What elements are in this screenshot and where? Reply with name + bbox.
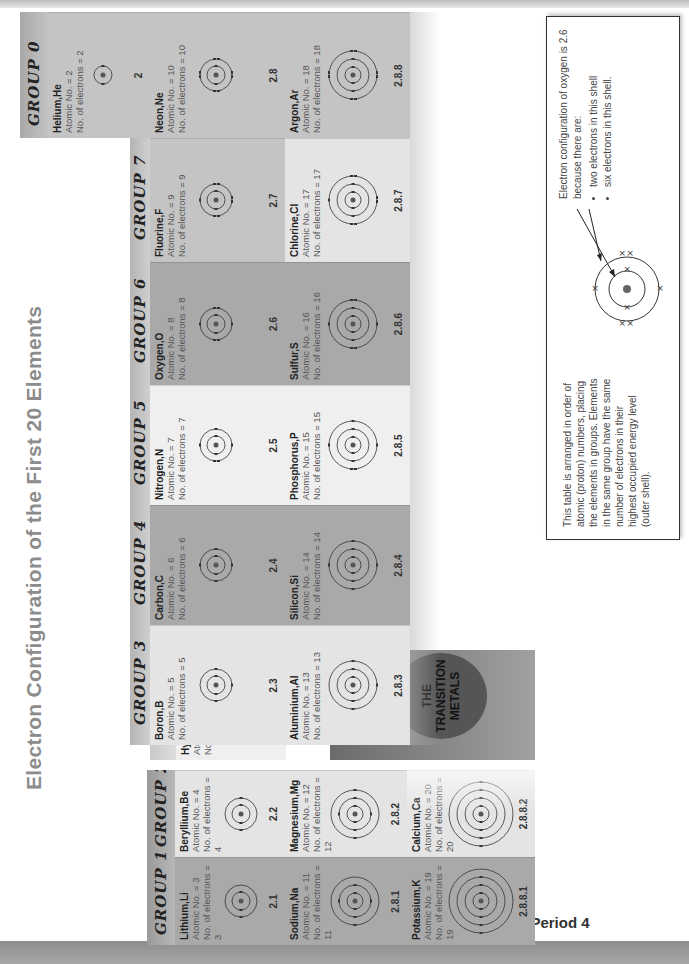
group-0-label: GROUP 0 <box>25 41 43 126</box>
bohr-model-icon <box>194 302 238 346</box>
bohr-model-icon <box>219 880 263 924</box>
group-3-label: GROUP 3 <box>131 640 149 725</box>
info-oxygen-explanation: Electron configuration of oxygen is 2.6 … <box>557 19 615 199</box>
bohr-model-icon <box>194 424 238 468</box>
element-cell-sodium: Sodium,Na Atomic No. = 11 No. of electro… <box>285 857 407 945</box>
shade <box>407 754 535 814</box>
diagram-canvas: Electron Configuration of the First 20 E… <box>0 0 689 964</box>
oxygen-bohr-diagram-icon: ×× ×× ×× ×× <box>567 199 667 349</box>
bohr-model-icon <box>219 792 263 836</box>
bohr-model-icon <box>323 294 383 354</box>
svg-text:×: × <box>590 284 600 292</box>
element-cell-fluorine: Fluorine,F Atomic No. = 9 No. of electro… <box>150 138 285 262</box>
element-cell-magnesium: Magnesium,Mg Atomic No. = 12 No. of elec… <box>285 770 407 857</box>
element-cell-helium: Helium,He Atomic No. = 2 No. of electron… <box>48 12 150 138</box>
svg-text:×: × <box>625 319 635 327</box>
element-cell-silicon: Silicon,Si Atomic No. = 14 No. of electr… <box>285 505 410 625</box>
element-cell-potassium: Potassium,K Atomic No. = 19 No. of elect… <box>407 857 535 945</box>
group-1-2-top-face: GROUP 1 GROUP 2 <box>147 770 175 945</box>
group-7-label: GROUP 7 <box>131 155 149 240</box>
group-2-label: GROUP 2 <box>152 770 170 847</box>
group-4-label: GROUP 4 <box>131 520 149 605</box>
element-cell-oxygen: Oxygen,O Atomic No. = 8 No. of electrons… <box>150 262 285 385</box>
shade <box>410 12 440 745</box>
svg-text:×: × <box>625 249 635 257</box>
bohr-model-icon <box>88 61 118 91</box>
element-cell-carbon: Carbon,C Atomic No. = 6 No. of electrons… <box>150 505 285 625</box>
bohr-model-icon <box>323 46 383 106</box>
element-cell-lithium: Lithium,Li Atomic No. = 3 No. of electro… <box>175 857 285 945</box>
group-1-label: GROUP 1 <box>152 850 170 935</box>
info-box: This table is arranged in order of atomi… <box>546 16 680 540</box>
bohr-model-icon <box>325 784 385 844</box>
element-cell-argon: Argon,Ar Atomic No. = 18 No. of electron… <box>285 12 410 138</box>
bohr-model-icon <box>194 179 238 223</box>
group-0-top-face: GROUP 0 <box>20 12 48 138</box>
bohr-model-icon <box>323 536 383 596</box>
group-6-label: GROUP 6 <box>131 278 149 363</box>
bohr-model-icon <box>323 171 383 231</box>
svg-text:×: × <box>622 265 632 273</box>
bohr-model-icon <box>194 544 238 588</box>
bohr-model-icon <box>194 54 238 98</box>
svg-text:×: × <box>655 284 665 292</box>
page-title: Electron Configuration of the First 20 E… <box>22 306 46 790</box>
element-cell-beryllium: Beryllium,Be Atomic No. = 4 No. of elect… <box>175 770 285 857</box>
element-cell-aluminium: Aluminium,Al Atomic No. = 13 No. of elec… <box>285 625 410 745</box>
bohr-model-icon <box>323 656 383 716</box>
bohr-model-icon <box>194 664 238 708</box>
svg-text:×: × <box>622 303 632 311</box>
bohr-model-icon <box>325 872 385 932</box>
group-5-label: GROUP 5 <box>131 400 149 485</box>
group-3-7-top-face: GROUP 3 GROUP 4 GROUP 5 GROUP 6 GROUP 7 <box>130 138 150 745</box>
element-cell-nitrogen: Nitrogen,N Atomic No. = 7 No. of electro… <box>150 385 285 505</box>
element-cell-neon: Neon,Ne Atomic No. = 10 No. of electrons… <box>150 12 285 138</box>
element-cell-boron: Boron,B Atomic No. = 5 No. of electrons … <box>150 625 285 745</box>
bohr-model-icon <box>323 416 383 476</box>
element-cell-chlorine: Chlorine,Cl Atomic No. = 17 No. of elect… <box>285 138 410 262</box>
element-cell-sulfur: Sulfur,S Atomic No. = 16 No. of electron… <box>285 262 410 385</box>
element-cell-phosphorus: Phosphorus,P Atomic No. = 15 No. of elec… <box>285 385 410 505</box>
info-text: This table is arranged in order of atomi… <box>561 377 652 527</box>
bohr-model-icon <box>443 864 519 940</box>
